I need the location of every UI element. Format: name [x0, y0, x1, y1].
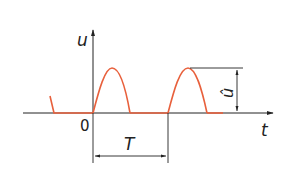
x-axis-label: t: [261, 120, 269, 140]
signal-waveform: [50, 68, 223, 113]
origin-label: 0: [80, 117, 90, 135]
amplitude-label: û: [218, 88, 237, 98]
waveform-diagram: u t 0 T û: [0, 0, 291, 185]
y-axis-label: u: [77, 30, 88, 50]
period-label: T: [124, 134, 136, 154]
